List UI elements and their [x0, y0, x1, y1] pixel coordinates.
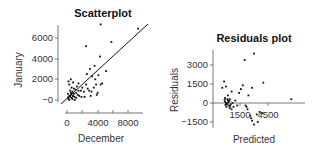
x-tick-label: 4000 [87, 117, 108, 128]
data-point [244, 59, 246, 61]
data-point [85, 45, 87, 47]
residuals-chart: Residuals plot 3000 1500 0 −1500 Residua… [169, 32, 305, 145]
x-tick-label: 4500 [257, 109, 278, 120]
residuals-title: Residuals plot [216, 32, 292, 44]
x-ticks [67, 110, 128, 113]
data-point [89, 68, 91, 70]
x-axis-label: Predicted [233, 134, 275, 145]
data-point [224, 101, 226, 103]
data-point [74, 99, 76, 101]
data-point [111, 41, 113, 43]
data-point [257, 121, 259, 123]
data-point [225, 104, 227, 106]
data-point [90, 95, 92, 97]
data-point [238, 92, 240, 94]
y-tick-label: −1500 [181, 116, 208, 127]
data-point [249, 115, 251, 117]
data-point [95, 84, 97, 86]
data-point [137, 28, 139, 30]
data-point [233, 106, 235, 108]
data-point [68, 84, 70, 86]
data-point [251, 87, 253, 89]
data-point [100, 24, 102, 26]
data-point [67, 93, 69, 95]
data-point [247, 108, 249, 110]
data-point [78, 95, 80, 97]
data-point [75, 92, 77, 94]
data-point [86, 73, 88, 75]
y-tick-label: 4000 [32, 53, 53, 64]
data-point [99, 56, 101, 58]
data-point [81, 96, 83, 98]
data-point [72, 91, 74, 93]
data-point [87, 88, 89, 90]
data-point [225, 86, 227, 88]
x-ticks [240, 103, 268, 106]
data-point [80, 90, 82, 92]
data-point [227, 95, 229, 97]
y-tick-label: 3000 [187, 59, 208, 70]
data-point [226, 106, 228, 108]
x-tick-label: 8000 [117, 117, 138, 128]
chart-canvas: Scatterplot 6000 4000 2000 −0 January 0 … [0, 0, 321, 158]
data-point [253, 124, 255, 126]
data-point [232, 102, 234, 104]
data-point [223, 81, 225, 83]
data-point [98, 74, 100, 76]
data-point [259, 111, 261, 113]
x-axis-label: December [78, 133, 125, 144]
y-tick-label: 2000 [32, 73, 53, 84]
scatterplot-title: Scatterplot [74, 7, 132, 19]
y-axis-label: Residuals [169, 68, 180, 112]
y-tick-label: 1500 [187, 78, 208, 89]
data-point [68, 81, 70, 83]
data-point [236, 105, 238, 107]
scatterplot-chart: Scatterplot 6000 4000 2000 −0 January 0 … [13, 7, 148, 144]
data-point [81, 87, 83, 89]
data-point [84, 96, 86, 98]
data-point [93, 87, 95, 89]
data-point [250, 117, 252, 119]
data-point [72, 98, 74, 100]
data-point [96, 94, 98, 96]
data-point [262, 82, 264, 84]
data-point [230, 103, 232, 105]
data-point [70, 78, 72, 80]
y-ticks [210, 65, 213, 122]
y-tick-label: 6000 [32, 32, 53, 43]
data-point [242, 84, 244, 86]
data-point [91, 75, 93, 77]
data-point [72, 82, 74, 84]
x-tick-label: 1500 [229, 109, 250, 120]
data-point [229, 107, 231, 109]
data-point [229, 98, 231, 100]
y-axis-label: January [13, 52, 24, 88]
data-point [69, 90, 71, 92]
data-point [231, 91, 233, 93]
data-point [88, 90, 90, 92]
data-point [72, 96, 74, 98]
data-point [91, 91, 93, 93]
data-point [83, 91, 85, 93]
y-tick-label: −0 [42, 94, 53, 105]
data-point [85, 84, 87, 86]
data-point [290, 98, 292, 100]
data-point [78, 83, 80, 85]
data-point [256, 114, 258, 116]
data-point [228, 100, 230, 102]
data-point [105, 70, 107, 72]
y-tick-label: 0 [203, 97, 208, 108]
x-tick-label: 0 [64, 117, 69, 128]
data-point [229, 105, 231, 107]
data-point [248, 95, 250, 97]
data-point [94, 65, 96, 67]
data-point [73, 93, 75, 95]
data-point [224, 99, 226, 101]
data-point [221, 87, 223, 89]
data-point [73, 88, 75, 90]
y-ticks [55, 38, 58, 100]
data-point [101, 83, 103, 85]
data-point [240, 88, 242, 90]
data-point [97, 92, 99, 94]
data-point [253, 53, 255, 55]
